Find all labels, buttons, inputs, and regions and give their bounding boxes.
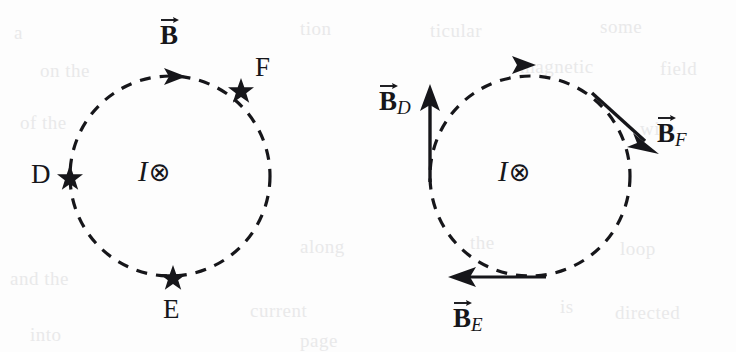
vector-bf-arrowhead — [627, 133, 659, 154]
vector-label-bd: BD — [379, 88, 411, 117]
field-label-b: B — [160, 22, 178, 49]
star-marker-f — [228, 78, 254, 103]
vector-label-bf-base: B — [657, 118, 675, 148]
current-letter-left: I — [138, 155, 149, 187]
point-label-e: E — [163, 296, 180, 323]
point-label-f: F — [255, 54, 270, 81]
magnetic-field-diagram — [0, 0, 736, 352]
right-panel — [420, 56, 659, 287]
vector-label-bd-sub: D — [397, 97, 411, 118]
vector-bd — [420, 84, 440, 182]
vector-label-be: BE — [453, 305, 483, 334]
field-direction-arrowhead-right — [512, 56, 536, 74]
point-label-d: D — [31, 161, 51, 188]
current-into-page-icon: ⊗ — [509, 157, 532, 187]
current-into-page-icon: ⊗ — [149, 157, 172, 187]
vector-arrow-accent — [657, 109, 676, 119]
current-letter-right: I — [498, 155, 509, 187]
vector-label-bd-base: B — [379, 86, 397, 116]
figure-container: ationticularsomeon themagneticfieldof th… — [0, 0, 736, 352]
vector-bf-shaft — [592, 93, 645, 141]
vector-label-be-base: B — [453, 303, 471, 333]
field-label-b-text: B — [160, 20, 178, 50]
vector-label-bf: BF — [657, 120, 687, 149]
vector-arrow-accent — [379, 77, 398, 87]
vector-label-be-sub: E — [471, 314, 483, 335]
vector-label-bf-sub: F — [675, 129, 687, 150]
vector-bf — [592, 93, 659, 154]
current-symbol-left: I⊗ — [138, 157, 171, 186]
vector-arrow-accent — [160, 11, 179, 21]
current-symbol-right: I⊗ — [498, 157, 531, 186]
vector-arrow-accent — [453, 294, 472, 304]
